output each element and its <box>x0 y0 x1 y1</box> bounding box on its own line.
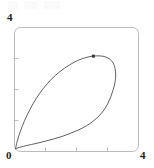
plot-canvas <box>0 0 154 168</box>
curve-path <box>15 56 115 149</box>
axis-ticks <box>15 59 108 152</box>
x-axis-max-label: 4 <box>140 150 146 161</box>
curve-point-marker <box>92 55 95 58</box>
plot-frame <box>15 28 139 152</box>
y-axis-max-label: 4 <box>7 12 13 23</box>
origin-label: 0 <box>6 150 12 161</box>
parametric-plot-figure: 4 0 4 <box>0 0 154 168</box>
